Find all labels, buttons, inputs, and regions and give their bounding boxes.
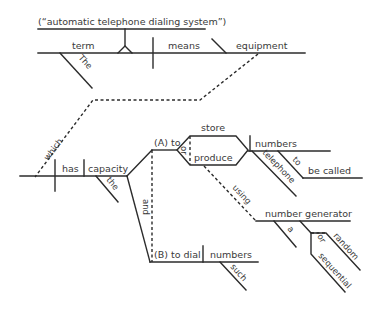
branch-a-object-numbers: numbers <box>255 138 297 149</box>
infinitive-be-called: be called <box>308 165 351 176</box>
branch-a-label: (A) to <box>154 137 181 148</box>
branch-b-label: (B) to dial <box>154 249 201 260</box>
conjunction-word-or-verbs: or <box>179 146 189 155</box>
object-word: equipment <box>236 40 288 51</box>
modifier-word-random: random <box>332 231 361 262</box>
appositive-text: (“automatic telephone dialing system”) <box>38 16 226 27</box>
modifier-word-such: such <box>229 262 250 283</box>
fork-upper <box>127 150 152 176</box>
modifier-word-the-upper: The <box>76 52 95 71</box>
verb-word: means <box>168 40 200 51</box>
preposition-word-using: using <box>231 183 254 207</box>
relative-pronoun-which: which <box>42 136 65 162</box>
sentence-diagram: (“automatic telephone dialing system”) t… <box>0 0 381 309</box>
branch-b-object-numbers: numbers <box>210 249 252 260</box>
relative-object-capacity: capacity <box>88 163 128 174</box>
verb-store: store <box>201 122 225 133</box>
fork-lower <box>127 176 150 262</box>
relative-verb-has: has <box>62 163 79 174</box>
appositive-pedestal <box>118 46 132 53</box>
conjunction-word-and: and <box>141 199 151 215</box>
prep-object-number-generator: number generator <box>265 208 352 219</box>
infinitive-marker-to: to <box>291 154 304 167</box>
object-divider <box>212 39 226 53</box>
subject-word: term <box>72 40 95 51</box>
verb-produce: produce <box>194 152 233 163</box>
modifier-word-a: a <box>285 224 296 234</box>
